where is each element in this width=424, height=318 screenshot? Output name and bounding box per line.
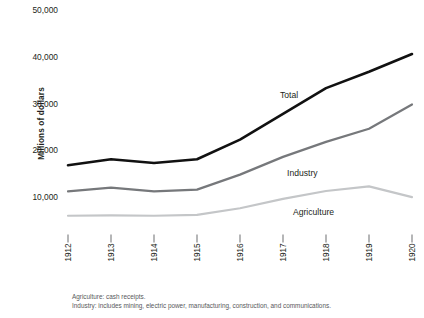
y-axis-tick-label: 30,000 xyxy=(12,100,58,108)
y-axis-tick-label: 50,000 xyxy=(12,6,58,14)
x-axis-tick-label: 1913 xyxy=(107,231,116,275)
series-line-agriculture xyxy=(68,186,412,215)
chart-footnotes: Agriculture: cash receipts.Industry: inc… xyxy=(72,293,420,310)
y-axis-tick-labels: 10,00020,00030,00040,00050,000 xyxy=(0,0,58,240)
x-axis-tick-label: 1916 xyxy=(236,231,245,275)
x-axis-tick-label: 1920 xyxy=(408,231,417,275)
x-axis-tick-label: 1912 xyxy=(64,231,73,275)
x-axis-tick-label: 1917 xyxy=(279,231,288,275)
x-axis: 191219131914191519161917191819191920 xyxy=(58,236,424,288)
line-chart-svg xyxy=(58,0,424,236)
x-axis-tick-label: 1915 xyxy=(193,231,202,275)
chart-figure: Millions of dollars 10,00020,00030,00040… xyxy=(0,0,424,318)
series-label-industry: Industry xyxy=(287,168,318,178)
plot-area xyxy=(58,0,424,236)
series-label-agriculture: Agriculture xyxy=(293,207,334,217)
x-axis-tick-label: 1918 xyxy=(322,231,331,275)
series-line-industry xyxy=(68,105,412,192)
series-line-total xyxy=(68,54,412,165)
x-axis-tick-label: 1919 xyxy=(365,231,374,275)
y-axis-tick-label: 20,000 xyxy=(12,146,58,154)
y-axis-tick-label: 40,000 xyxy=(12,53,58,61)
footnote-line: Industry: includes mining, electric powe… xyxy=(72,302,420,311)
footnote-line: Agriculture: cash receipts. xyxy=(72,293,420,302)
series-label-total: Total xyxy=(280,90,298,100)
y-axis-tick-label: 10,000 xyxy=(12,193,58,201)
x-axis-tick-label: 1914 xyxy=(150,231,159,275)
